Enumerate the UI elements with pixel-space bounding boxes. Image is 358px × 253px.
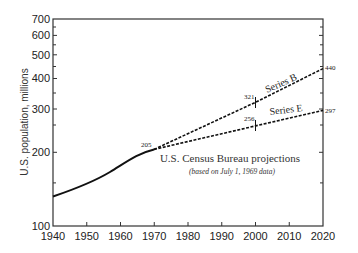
- x-tick-2000: 2000: [243, 230, 267, 242]
- x-tick-1960: 1960: [108, 230, 132, 242]
- series-e-line: [154, 110, 323, 149]
- x-tick-1970: 1970: [142, 230, 166, 242]
- historical-line: [53, 149, 154, 196]
- y-tick-400: 400: [32, 72, 50, 84]
- y-tick-200: 200: [32, 146, 50, 158]
- y-tick-300: 300: [32, 103, 50, 115]
- population-chart: 100 200 300 400 500 600 700 1940 1950 19…: [0, 0, 358, 253]
- x-tick-1990: 1990: [210, 230, 234, 242]
- y-tick-500: 500: [32, 49, 50, 61]
- y-tick-700: 700: [32, 13, 50, 25]
- y-tick-600: 600: [32, 29, 50, 41]
- label-440: 440: [325, 64, 336, 72]
- label-297: 297: [325, 107, 336, 115]
- label-256: 256: [244, 115, 255, 123]
- projection-caption: U.S. Census Bureau projections: [160, 152, 300, 164]
- x-tick-2020: 2020: [311, 230, 335, 242]
- x-tick-labels: 1940 1950 1960 1970 1980 1990 2000 2010 …: [41, 230, 335, 242]
- y-axis-label: U.S. population, millions: [19, 68, 30, 175]
- series-e-label: Series E: [269, 102, 303, 117]
- projection-subcaption: (based on July 1, 1969 data): [189, 167, 275, 176]
- y-tick-labels: 100 200 300 400 500 600 700: [32, 13, 50, 232]
- x-tick-1980: 1980: [176, 230, 200, 242]
- x-tick-1940: 1940: [41, 230, 65, 242]
- x-tick-1950: 1950: [75, 230, 99, 242]
- plot-frame: [53, 19, 323, 226]
- label-205: 205: [141, 141, 152, 149]
- label-321: 321: [244, 93, 255, 101]
- x-ticks: [87, 222, 290, 226]
- series-b-label: Series B: [263, 71, 298, 95]
- x-tick-2010: 2010: [277, 230, 301, 242]
